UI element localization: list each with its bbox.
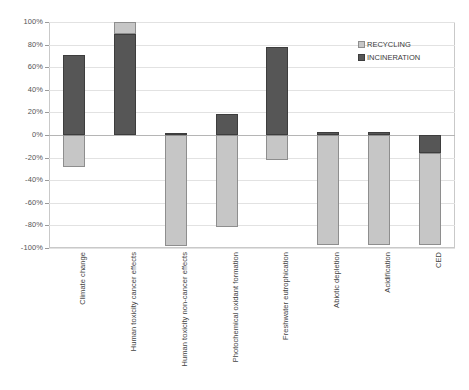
gridline <box>49 248 455 249</box>
y-axis-label: -20% <box>3 154 43 162</box>
legend-item-recycling: RECYCLING <box>358 38 420 51</box>
y-axis-label: -40% <box>3 176 43 184</box>
bar-segment-incineration <box>419 135 441 153</box>
y-tick-mark <box>45 135 49 136</box>
gridline <box>49 203 455 204</box>
gridline <box>49 180 455 181</box>
y-tick-mark <box>45 180 49 181</box>
y-tick-mark <box>45 90 49 91</box>
y-axis-label: 60% <box>3 63 43 71</box>
bar-segment-recycling <box>114 22 136 34</box>
legend-label-recycling: RECYCLING <box>367 38 411 51</box>
stacked-bar-chart: 100%80%60%40%20%0%-20%-40%-60%-80%-100% … <box>0 0 469 390</box>
bar-segment-recycling <box>317 135 339 245</box>
gridline <box>49 22 455 23</box>
y-axis-label: 100% <box>3 18 43 26</box>
y-tick-mark <box>45 248 49 249</box>
y-axis-label: 40% <box>3 86 43 94</box>
bar-group <box>165 22 187 248</box>
bar-group <box>317 22 339 248</box>
bar-group <box>216 22 238 248</box>
x-axis-label: Freshwater eutrophication <box>281 252 290 340</box>
gridline <box>49 67 455 68</box>
bar-segment-recycling <box>216 135 238 227</box>
x-axis-label: Abiotic depletion <box>332 252 341 308</box>
legend-swatch-recycling-icon <box>358 41 365 48</box>
y-tick-mark <box>45 45 49 46</box>
chart-legend: RECYCLING INCINERATION <box>358 38 420 64</box>
x-axis-label: Human toxicity non-cancer effects <box>180 252 189 366</box>
bar-segment-recycling <box>165 135 187 246</box>
y-axis-label: -100% <box>3 244 43 252</box>
bar-segment-incineration <box>63 55 85 135</box>
bar-group <box>266 22 288 248</box>
bar-group <box>114 22 136 248</box>
y-axis-label: 20% <box>3 108 43 116</box>
bar-segment-incineration <box>114 34 136 135</box>
bar-group <box>63 22 85 248</box>
y-tick-mark <box>45 203 49 204</box>
x-axis-label: Human toxicity cancer effects <box>129 252 138 351</box>
bar-segment-incineration <box>266 47 288 135</box>
gridline <box>49 90 455 91</box>
y-tick-mark <box>45 67 49 68</box>
zero-line <box>49 135 455 136</box>
bar-segment-recycling <box>419 153 441 245</box>
y-tick-mark <box>45 158 49 159</box>
bar-group <box>419 22 441 248</box>
gridline <box>49 225 455 226</box>
y-tick-mark <box>45 225 49 226</box>
y-tick-mark <box>45 22 49 23</box>
scan-artifact-band <box>0 0 469 8</box>
bar-segment-recycling <box>368 135 390 245</box>
legend-item-incineration: INCINERATION <box>358 51 420 64</box>
bar-segment-recycling <box>266 135 288 160</box>
y-axis-label: -80% <box>3 221 43 229</box>
gridline <box>49 112 455 113</box>
y-axis-label: 0% <box>3 131 43 139</box>
bar-segment-recycling <box>63 135 85 167</box>
y-tick-mark <box>45 112 49 113</box>
x-axis-label: Photochemical oxidant formation <box>231 252 240 362</box>
y-axis-label: -60% <box>3 199 43 207</box>
x-axis-label: Climate change <box>78 252 87 305</box>
y-axis-label: 80% <box>3 41 43 49</box>
x-axis-label: CED <box>434 252 443 268</box>
bar-segment-incineration <box>216 114 238 135</box>
legend-label-incineration: INCINERATION <box>367 51 420 64</box>
gridline <box>49 158 455 159</box>
legend-swatch-incineration-icon <box>358 54 365 61</box>
x-axis-label: Acidification <box>383 252 392 293</box>
